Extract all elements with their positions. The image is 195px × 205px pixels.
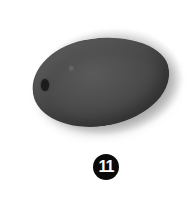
product-figure: 11 (0, 0, 195, 205)
item-number-badge: 11 (93, 154, 119, 180)
item-number: 11 (99, 158, 114, 176)
foam-opening (41, 79, 49, 91)
